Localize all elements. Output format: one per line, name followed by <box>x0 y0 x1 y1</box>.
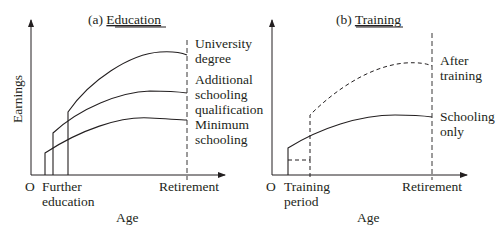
x-tick-period: period <box>284 194 319 209</box>
origin-label: O <box>266 179 276 194</box>
x-tick-further: Further <box>42 179 82 194</box>
x-tick-retirement: Retirement <box>402 179 462 194</box>
curve-university-degree <box>68 52 187 175</box>
panel-a-education: (a) Education Earnings University degree… <box>10 12 263 225</box>
panel-b-title: (b) Training <box>336 12 401 27</box>
panel-b-training: (b) Training After training Schooling on… <box>266 12 495 225</box>
label-degree: degree <box>195 51 231 66</box>
curve-minimum-schooling <box>45 118 187 175</box>
label-schooling: Schooling <box>440 109 495 124</box>
x-axis-label: Age <box>116 210 139 225</box>
curve-additional-schooling <box>53 91 187 175</box>
x-axis-label: Age <box>357 210 380 225</box>
origin-label: O <box>25 179 35 194</box>
label-university: University <box>195 36 252 51</box>
diagram-canvas: (a) Education Earnings University degree… <box>0 0 503 235</box>
curve-after-training <box>310 63 432 160</box>
panel-a-title: (a) Education <box>88 12 161 27</box>
label-only: only <box>440 124 464 139</box>
x-tick-training: Training <box>284 179 330 194</box>
curve-training-period <box>288 160 310 180</box>
label-min-schooling: schooling <box>195 132 248 147</box>
label-training: training <box>440 68 482 83</box>
x-tick-retirement: Retirement <box>159 179 219 194</box>
label-after: After <box>440 53 469 68</box>
label-qualification: qualification <box>195 102 263 117</box>
label-schooling: schooling <box>195 87 248 102</box>
x-tick-education: education <box>42 194 95 209</box>
label-minimum: Minimum <box>195 117 250 132</box>
label-additional: Additional <box>195 72 253 87</box>
y-axis-label: Earnings <box>10 75 25 123</box>
